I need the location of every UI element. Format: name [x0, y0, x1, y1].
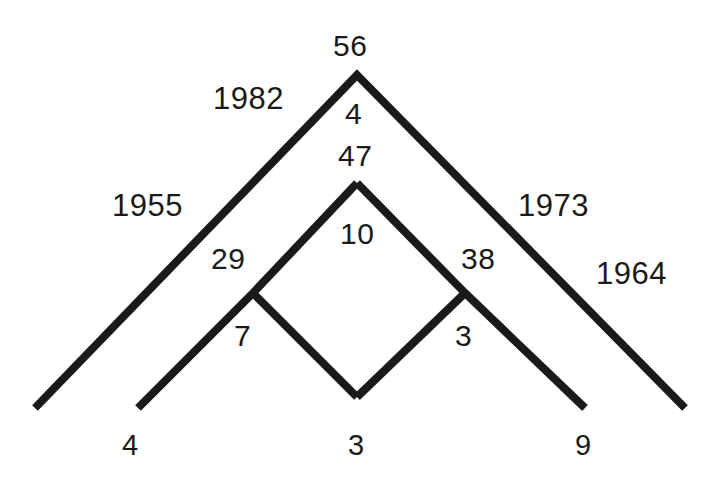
- label-right-branch-count: 38: [461, 244, 495, 274]
- label-top-count: 56: [333, 31, 367, 61]
- label-inner-apex-node: 47: [338, 141, 372, 171]
- label-year-1964: 1964: [596, 258, 667, 289]
- diamond-right-edge-path: [357, 293, 465, 397]
- label-year-1955: 1955: [112, 190, 183, 221]
- label-right-diamond-count: 3: [455, 321, 472, 351]
- label-leaf-center: 3: [348, 431, 364, 460]
- label-inner-chevron-count: 10: [340, 219, 374, 249]
- label-year-1982: 1982: [213, 83, 284, 114]
- label-leaf-left: 4: [122, 431, 138, 460]
- diamond-left-edge-path: [253, 293, 357, 397]
- label-apex-inner-upper: 4: [345, 99, 362, 129]
- label-year-1973: 1973: [518, 190, 589, 221]
- label-left-diamond-count: 7: [234, 321, 251, 351]
- chevron-tree-diagram: 56 4 47 10 1982 1955 1973 1964 29 38 7 3…: [0, 0, 719, 483]
- label-leaf-right: 9: [575, 431, 591, 460]
- label-left-branch-count: 29: [211, 244, 245, 274]
